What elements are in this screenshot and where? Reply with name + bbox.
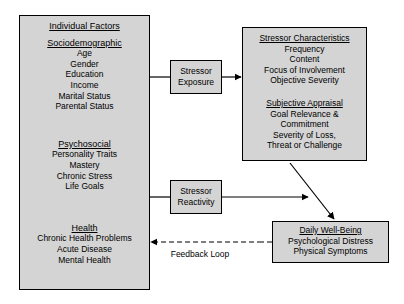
- stressor-reactivity-line2: Reactivity: [171, 197, 221, 208]
- stressor-exposure-line2: Exposure: [171, 77, 221, 88]
- feedback-loop-label: Feedback Loop: [140, 249, 260, 259]
- sociodemographic-item: Education: [20, 69, 149, 80]
- stressor-reactivity-line1: Stressor: [171, 186, 221, 197]
- stressor-characteristics-heading: Stressor Characteristics: [243, 33, 366, 44]
- group-health: Health Chronic Health Problems Acute Dis…: [20, 223, 149, 265]
- diagram-canvas: Individual Factors Sociodemographic Age …: [0, 0, 404, 304]
- subjective-appraisal-item: Threat or Challenge: [243, 140, 366, 151]
- stressor-characteristics-item: Objective Severity: [243, 75, 366, 86]
- psychosocial-item: Mastery: [20, 160, 149, 171]
- box-stressor-exposure: Stressor Exposure: [170, 60, 222, 94]
- psychosocial-item: Life Goals: [20, 181, 149, 192]
- health-item: Chronic Health Problems: [20, 233, 149, 244]
- sociodemographic-item: Marital Status: [20, 91, 149, 102]
- subjective-appraisal-item: Goal Relevance &: [243, 109, 366, 120]
- box-stressor-reactivity: Stressor Reactivity: [170, 180, 222, 214]
- sociodemographic-item: Age: [20, 48, 149, 59]
- health-heading: Health: [20, 223, 149, 234]
- daily-wellbeing-item: Psychological Distress: [273, 236, 388, 247]
- group-sociodemographic: Sociodemographic Age Gender Education In…: [20, 38, 149, 112]
- psychosocial-heading: Psychosocial: [20, 139, 149, 150]
- stressor-exposure-line1: Stressor: [171, 66, 221, 77]
- sociodemographic-item: Income: [20, 80, 149, 91]
- health-item: Acute Disease: [20, 244, 149, 255]
- stressor-characteristics-item: Frequency: [243, 44, 366, 55]
- stressor-characteristics-item: Content: [243, 54, 366, 65]
- arrow-appraisal-to-wellbeing: [290, 163, 334, 219]
- subjective-appraisal-item: Severity of Loss,: [243, 130, 366, 141]
- stressor-characteristics-item: Focus of Involvement: [243, 65, 366, 76]
- subjective-appraisal-heading: Subjective Appraisal: [243, 98, 366, 109]
- group-subjective-appraisal: Subjective Appraisal Goal Relevance & Co…: [243, 98, 366, 151]
- health-item: Mental Health: [20, 255, 149, 266]
- daily-wellbeing-item: Physical Symptoms: [273, 246, 388, 257]
- box-daily-wellbeing: Daily Well-Being Psychological Distress …: [272, 221, 389, 263]
- subjective-appraisal-item: Commitment: [243, 119, 366, 130]
- sociodemographic-item: Parental Status: [20, 101, 149, 112]
- sociodemographic-item: Gender: [20, 59, 149, 70]
- group-psychosocial: Psychosocial Personality Traits Mastery …: [20, 139, 149, 192]
- psychosocial-item: Personality Traits: [20, 149, 149, 160]
- group-stressor-characteristics: Stressor Characteristics Frequency Conte…: [243, 33, 366, 86]
- box-individual-factors: Individual Factors Sociodemographic Age …: [19, 15, 150, 290]
- sociodemographic-heading: Sociodemographic: [20, 38, 149, 49]
- box-stressor-characteristics: Stressor Characteristics Frequency Conte…: [242, 27, 367, 161]
- daily-wellbeing-heading: Daily Well-Being: [273, 225, 388, 236]
- individual-factors-title: Individual Factors: [20, 21, 149, 32]
- psychosocial-item: Chronic Stress: [20, 171, 149, 182]
